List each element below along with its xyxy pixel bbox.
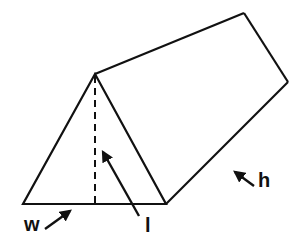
h-arrow xyxy=(235,172,254,186)
label-w: w xyxy=(24,214,40,234)
triangular-prism-diagram: w l h xyxy=(0,0,308,250)
back-slope-edge xyxy=(244,13,288,82)
label-l: l xyxy=(145,215,151,235)
l-arrow xyxy=(103,152,139,216)
w-arrow xyxy=(45,211,70,229)
prism-drawing xyxy=(0,0,308,250)
top-ridge-edge xyxy=(95,13,244,74)
label-h: h xyxy=(258,170,270,190)
